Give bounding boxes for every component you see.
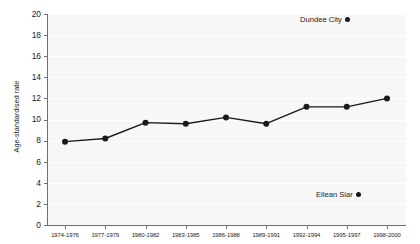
y-tick-label: 8 — [9, 136, 41, 144]
legend-label-dundee-city: Dundee City — [300, 16, 342, 24]
x-tick-mark — [266, 226, 267, 229]
x-tick-mark — [146, 226, 147, 229]
legend-item-dundee-city: Dundee City — [300, 16, 350, 24]
legend-item-eilean-siar: Eilean Siar — [316, 191, 361, 199]
y-tick-mark — [44, 183, 47, 184]
x-tick-mark — [226, 226, 227, 229]
x-tick-mark — [186, 226, 187, 229]
y-tick-mark — [44, 14, 47, 15]
x-tick-mark — [347, 226, 348, 229]
y-tick-mark — [44, 225, 47, 226]
y-tick-label: 12 — [9, 94, 41, 102]
x-tick-mark — [65, 226, 66, 229]
y-tick-label: 16 — [9, 52, 41, 60]
y-tick-label: 0 — [9, 221, 41, 229]
x-tick-mark — [387, 226, 388, 229]
y-tick-mark — [44, 120, 47, 121]
y-tick-mark — [44, 35, 47, 36]
y-tick-mark — [44, 98, 47, 99]
y-tick-label: 14 — [9, 73, 41, 81]
y-tick-label: 6 — [9, 158, 41, 166]
y-tick-mark — [44, 141, 47, 142]
y-tick-label: 18 — [9, 31, 41, 39]
line-chart: Age-standardised rate 02468101214161820 … — [0, 0, 420, 244]
x-tick-mark — [307, 226, 308, 229]
x-tick-mark — [105, 226, 106, 229]
y-axis-ticks: 02468101214161820 — [0, 0, 420, 244]
y-tick-mark — [44, 162, 47, 163]
y-tick-mark — [44, 204, 47, 205]
y-tick-label: 4 — [9, 179, 41, 187]
y-tick-label: 2 — [9, 200, 41, 208]
y-tick-label: 10 — [9, 115, 41, 123]
y-tick-mark — [44, 56, 47, 57]
x-tick-label: 1998-2000 — [357, 233, 417, 239]
y-tick-label: 20 — [9, 10, 41, 18]
legend-marker-dot-icon — [356, 192, 361, 197]
legend-label-eilean-siar: Eilean Siar — [316, 191, 353, 199]
legend-marker-dot-icon — [345, 17, 350, 22]
y-tick-mark — [44, 77, 47, 78]
